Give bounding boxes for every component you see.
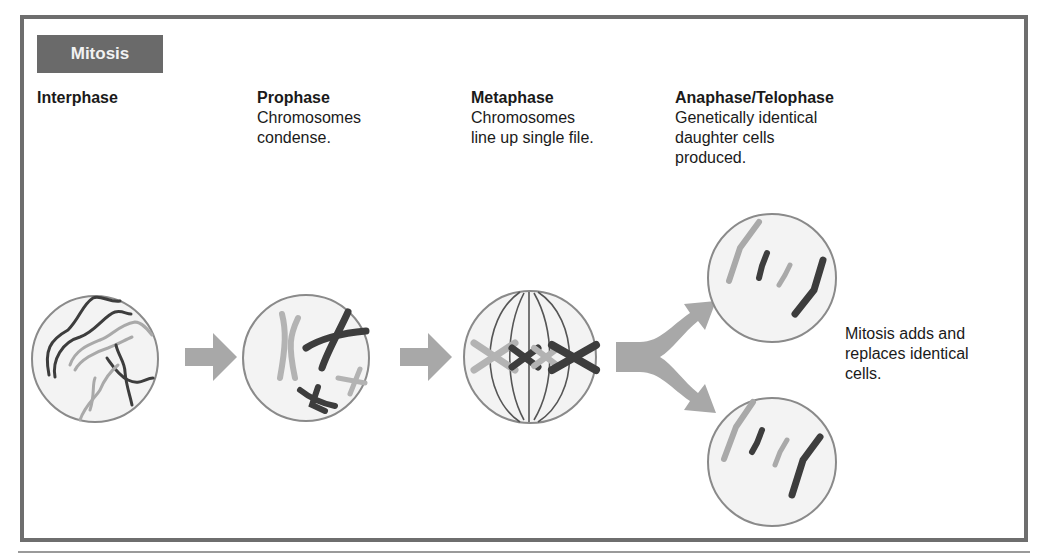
daughter-cell-bottom (708, 398, 836, 526)
arrow-metaphase-to-daughter-cells (616, 301, 716, 413)
daughter-cell-top (708, 214, 836, 342)
arrow-interphase-to-prophase (185, 333, 237, 381)
prophase-cell (243, 295, 369, 421)
interphase-cell (32, 296, 158, 422)
metaphase-cell (464, 291, 596, 423)
arrow-prophase-to-metaphase (400, 333, 452, 381)
mitosis-illustration (0, 0, 1039, 555)
